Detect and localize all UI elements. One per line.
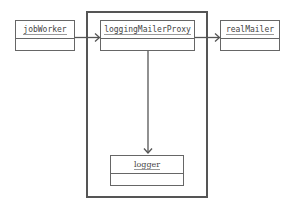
connector-layer (0, 0, 287, 206)
arrow-jobworker-to-proxy (75, 34, 100, 42)
arrow-proxy-to-realmailer (195, 34, 220, 42)
arrow-proxy-to-logger (144, 51, 152, 153)
